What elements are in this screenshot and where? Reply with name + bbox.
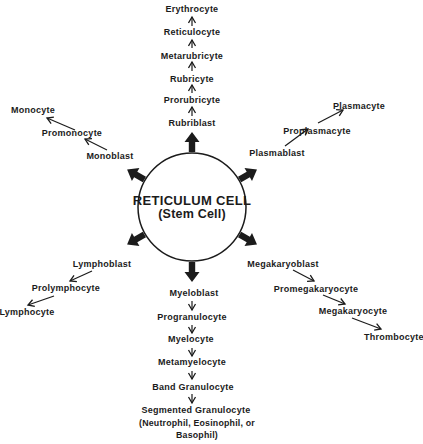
- stem-arrow-lower-right-icon: [238, 232, 257, 246]
- node-megakaryoblast: Megakaryoblast: [247, 259, 319, 269]
- segmented-granulocyte-note: (Neutrophil, Eosinophil, or Basophil): [127, 417, 267, 441]
- node-plasmacyte: Plasmacyte: [333, 101, 385, 111]
- diagram-linework: [0, 0, 423, 444]
- node-thrombocyte: Thrombocyte: [364, 332, 423, 342]
- node-lymphocyte: Lymphocyte: [0, 307, 55, 317]
- stem-arrow-upper-right-icon: [238, 168, 257, 182]
- node-plasmablast: Plasmablast: [249, 148, 304, 158]
- node-myelocyte: Myelocyte: [168, 334, 214, 344]
- node-erythrocyte: Erythrocyte: [166, 4, 219, 14]
- node-rubriblast: Rubriblast: [168, 118, 215, 128]
- stem-arrow-up-icon: [185, 132, 200, 152]
- megakaryocytic-arrows: [293, 270, 381, 329]
- node-myeloblast: Myeloblast: [169, 288, 218, 298]
- node-metamyelocyte: Metamyelocyte: [158, 357, 226, 367]
- stem-cell-subtitle: (Stem Cell): [158, 207, 226, 221]
- node-rubricyte: Rubricyte: [170, 74, 214, 84]
- node-promegakaryocyte: Promegakaryocyte: [274, 284, 359, 294]
- stem-arrow-lower-left-icon: [127, 232, 146, 246]
- node-segmented-granulocyte: Segmented Granulocyte: [142, 405, 251, 415]
- node-monoblast: Monoblast: [86, 151, 133, 161]
- node-monocyte: Monocyte: [11, 105, 55, 115]
- stem-arrow-down-icon: [185, 262, 200, 282]
- stem-cell-title: RETICULUM CELL: [133, 193, 251, 208]
- node-lymphoblast: Lymphoblast: [73, 259, 131, 269]
- node-metarubricyte: Metarubricyte: [161, 51, 223, 61]
- node-prorubricyte: Prorubricyte: [164, 95, 221, 105]
- node-band-granulocyte: Band Granulocyte: [152, 382, 234, 392]
- node-promonocyte: Promonocyte: [42, 128, 102, 138]
- node-reticulocyte: Reticulocyte: [164, 27, 221, 37]
- node-prolymphocyte: Prolymphocyte: [32, 283, 100, 293]
- node-proplasmacyte: Proplasmacyte: [283, 126, 350, 136]
- node-progranulocyte: Progranulocyte: [157, 312, 227, 322]
- hematopoiesis-diagram: RETICULUM CELL (Stem Cell) Erythrocyte R…: [0, 0, 423, 444]
- node-megakaryocyte: Megakaryocyte: [319, 306, 387, 316]
- stem-arrow-upper-left-icon: [127, 168, 146, 182]
